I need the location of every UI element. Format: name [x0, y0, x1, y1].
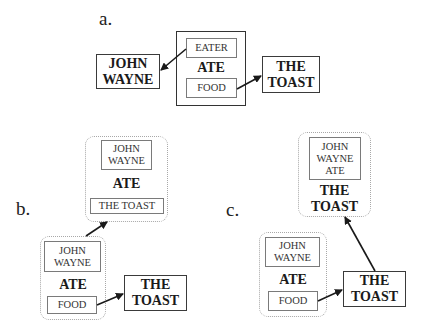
panel-a-frame-head-text: ATE — [197, 60, 225, 76]
panel-a-agent-box: JOHN WAYNE — [96, 54, 160, 89]
panel-c-result-slot-top: JOHN WAYNE ATE — [309, 137, 361, 180]
panel-a-slot-eater: EATER — [186, 38, 237, 58]
panel-b-source-slot-top-text: JOHN WAYNE — [54, 245, 91, 269]
panel-c-result-slot-top-text: JOHN WAYNE ATE — [317, 141, 354, 177]
panel-c-result-head: THE TOAST — [298, 182, 371, 216]
panel-c-label: c. — [226, 200, 239, 219]
panel-a-label: a. — [99, 9, 112, 28]
panel-c-source-slot-top: JOHN WAYNE — [265, 237, 320, 267]
panel-c-source-slot-bottom: FOOD — [268, 291, 318, 311]
panel-a-slot-eater-text: EATER — [195, 42, 228, 54]
panel-c-result-head-text: THE TOAST — [311, 183, 358, 215]
panel-c-object-text: THE TOAST — [351, 273, 398, 305]
panel-a-slot-food: FOOD — [186, 78, 237, 98]
panel-c-object-box: THE TOAST — [343, 271, 406, 307]
panel-a-object-box: THE TOAST — [262, 56, 320, 93]
panel-a-frame-head: ATE — [176, 59, 246, 77]
panel-b-source-slot-top: JOHN WAYNE — [44, 241, 101, 272]
panel-b-result-slot-top-text: JOHN WAYNE — [108, 143, 145, 167]
panel-b-source-slot-bottom-text: FOOD — [58, 299, 87, 311]
diagram-canvas: a. JOHN WAYNE EATER ATE FOOD THE TOAST b… — [0, 0, 422, 333]
panel-a-slot-food-text: FOOD — [197, 82, 226, 94]
panel-b-result-head-text: ATE — [113, 176, 141, 192]
panel-b-result-slot-bottom: THE TOAST — [90, 198, 164, 214]
panel-b-object-text: THE TOAST — [132, 277, 179, 309]
panel-b-object-box: THE TOAST — [124, 275, 187, 311]
panel-b-result-slot-top: JOHN WAYNE — [101, 140, 152, 170]
panel-c-source-slot-top-text: JOHN WAYNE — [274, 240, 311, 264]
panel-c-source-head: ATE — [259, 270, 327, 290]
panel-c-arrow-object-to-result — [345, 217, 375, 271]
panel-b-label: b. — [16, 199, 30, 218]
panel-b-source-head-text: ATE — [59, 277, 87, 293]
panel-b-arrow-source-to-result — [86, 222, 107, 236]
panel-b-result-head: ATE — [85, 174, 168, 194]
panel-b-source-head: ATE — [40, 275, 106, 295]
panel-b-result-slot-bottom-text: THE TOAST — [99, 200, 156, 212]
panel-c-source-head-text: ATE — [279, 272, 307, 288]
panel-a-object-text: THE TOAST — [267, 59, 314, 91]
panel-b-source-slot-bottom: FOOD — [47, 296, 97, 314]
panel-c-source-slot-bottom-text: FOOD — [279, 295, 308, 307]
panel-a-agent-text: JOHN WAYNE — [103, 56, 154, 88]
